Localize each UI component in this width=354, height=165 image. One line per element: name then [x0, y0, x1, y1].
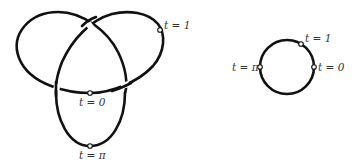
label-t1: t = 1	[305, 32, 331, 44]
crossing-gap	[88, 23, 92, 29]
point-t0	[88, 91, 93, 96]
circle-curve: t = 0 t = π t = 1	[232, 32, 345, 94]
point-t1	[299, 42, 304, 47]
trefoil-left-lobe	[17, 12, 127, 93]
point-t0	[312, 65, 317, 70]
label-tpi: t = π	[79, 149, 107, 161]
label-tpi: t = π	[232, 61, 260, 73]
point-tpi	[88, 144, 93, 149]
trefoil-right-lobe	[56, 12, 163, 93]
diagram-figure: t = 0 t = π t = 1 t = 0 t = π t = 1	[0, 0, 354, 165]
label-t0: t = 0	[79, 96, 106, 108]
point-t1	[158, 28, 163, 33]
circle-path	[260, 40, 314, 94]
label-t0: t = 0	[318, 61, 345, 73]
label-t1: t = 1	[164, 19, 190, 31]
trefoil-knot: t = 0 t = π t = 1	[17, 12, 191, 161]
